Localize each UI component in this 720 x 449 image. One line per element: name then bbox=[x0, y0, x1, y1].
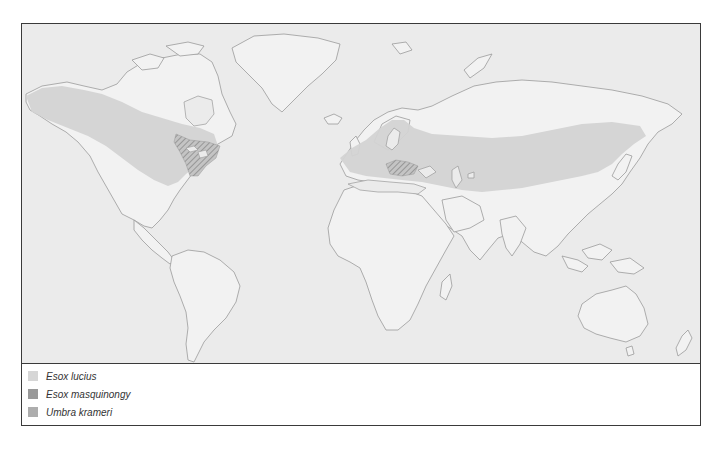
legend-label: Esox masquinongy bbox=[46, 389, 131, 400]
swatch-esox-lucius bbox=[28, 371, 38, 381]
legend-item-umbra-krameri: Umbra krameri bbox=[28, 405, 112, 419]
legend: Esox lucius Esox masquinongy Umbra krame… bbox=[22, 364, 700, 425]
land bbox=[26, 34, 692, 362]
swatch-umbra-krameri bbox=[28, 407, 38, 417]
legend-item-esox-masquinongy: Esox masquinongy bbox=[28, 387, 131, 401]
world-map-svg bbox=[22, 24, 700, 363]
legend-label: Esox lucius bbox=[46, 371, 97, 382]
legend-item-esox-lucius: Esox lucius bbox=[28, 369, 97, 383]
swatch-esox-masquinongy bbox=[28, 389, 38, 399]
figure-frame: Esox lucius Esox masquinongy Umbra krame… bbox=[21, 23, 701, 426]
legend-label: Umbra krameri bbox=[46, 407, 112, 418]
world-map bbox=[22, 24, 700, 364]
